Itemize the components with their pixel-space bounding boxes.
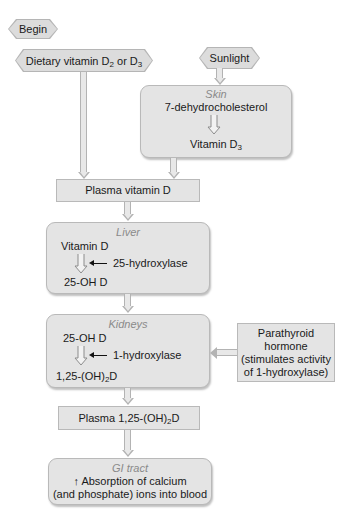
arrow-head [168,172,180,179]
arrow-head [122,306,134,313]
begin-label: Begin [19,23,47,35]
gi-organ-label: GI tract [49,462,211,475]
dietary-vitamin-d-node: Dietary vitamin D2 or D3 [16,50,152,71]
arrow-head [122,398,134,405]
dietary-label: Dietary vitamin D2 or D3 [26,55,143,67]
kidneys-from: 25-OH D [63,332,106,345]
sunlight-node: Sunlight [200,48,259,68]
sunlight-label: Sunlight [210,52,250,64]
arrow-skin-to-plasma [170,158,177,173]
conversion-arrow-icon [74,254,88,274]
liver-from: Vitamin D [61,240,108,253]
liver-enzyme: 25-hydroxylase [113,257,188,270]
gi-tract-box: GI tract ↑ Absorption of calcium (and ph… [48,458,212,505]
conversion-arrow-icon [207,115,221,135]
arrow-head [122,450,134,457]
liver-box: Liver Vitamin D 25-hydroxylase 25-OH D [46,222,210,294]
parathyroid-hormone-box: Parathyroid hormone (stimulates activity… [237,323,335,382]
arrow-plasma125-to-gi [124,430,131,451]
gi-line: ↑ Absorption of calcium [49,475,211,488]
pth-line: (stimulates activity [241,353,331,366]
plasma-125-oh2d-box: Plasma 1,25-(OH)2D [58,406,200,430]
liver-to: 25-OH D [64,276,107,289]
skin-organ-label: Skin [141,88,291,101]
kidneys-enzyme: 1-hydroxylase [113,349,181,362]
arrow-head [78,172,90,179]
pth-line: Parathyroid [258,327,314,340]
arrow-sunlight-to-skin [216,68,223,78]
arrow-pth-to-kidneys [217,349,237,356]
skin-to: Vitamin D3 [141,138,291,151]
arrow-dietary-to-plasma [80,72,87,173]
pth-line: hormone [264,340,307,353]
arrow-head [122,214,134,221]
skin-box: Skin 7-dehydrocholesterol Vitamin D3 [140,85,292,158]
gi-line: (and phosphate) ions into blood [49,488,211,501]
kidneys-box: Kidneys 25-OH D 1-hydroxylase 1,25-(OH)2… [46,314,210,388]
enzyme-arrow-icon [93,355,107,356]
skin-from: 7-dehydrocholesterol [141,101,291,114]
plasma-vitamin-d-box: Plasma vitamin D [56,179,200,202]
kidneys-to: 1,25-(OH)2D [56,370,117,383]
liver-organ-label: Liver [47,226,209,239]
begin-node: Begin [9,20,57,38]
kidneys-organ-label: Kidneys [47,318,209,331]
pth-line: of 1-hydroxylase) [244,366,328,379]
arrow-head [210,347,217,359]
plasma-vitamin-d-label: Plasma vitamin D [85,184,171,197]
plasma-125-label: Plasma 1,25-(OH)2D [78,412,179,425]
conversion-arrow-icon [74,346,88,366]
enzyme-arrow-icon [93,263,107,264]
arrow-head [214,78,226,85]
